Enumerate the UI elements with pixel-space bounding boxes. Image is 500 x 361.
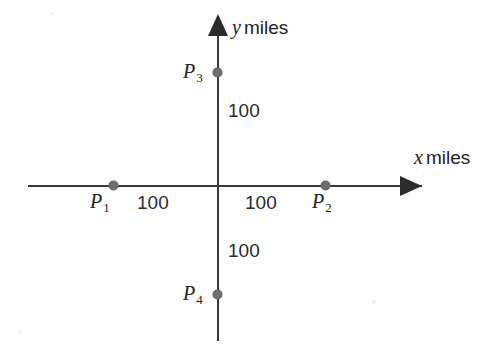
distance-label-left: 100 [137,192,169,214]
x-axis-line [28,185,422,187]
scan-speck [50,12,53,15]
scan-speck [18,330,21,333]
y-axis-unit: miles [244,17,288,38]
point-label-p2-subscript: 2 [324,200,332,215]
point-label-p4-subscript: 4 [195,292,203,307]
point-label-p1-text: P [90,190,102,212]
scan-speck [372,300,376,304]
point-label-p2-text: P [312,190,324,212]
distance-label-down: 100 [228,240,260,262]
point-label-p1-subscript: 1 [102,200,110,215]
point-dot-p1[interactable] [109,181,118,190]
y-axis-arrow-icon [208,14,228,36]
distance-label-right: 100 [245,192,277,214]
x-axis-unit: miles [426,147,470,168]
x-axis-caption: xmiles [414,146,470,169]
point-label-p3: P3 [183,60,203,86]
y-axis-variable: y [232,16,244,38]
point-dot-p3[interactable] [213,68,222,77]
y-axis-caption: ymiles [232,16,288,39]
point-label-p3-subscript: 3 [195,70,203,85]
distance-label-up: 100 [228,100,260,122]
point-dot-p2[interactable] [321,181,330,190]
point-label-p3-text: P [183,60,195,82]
point-label-p4-text: P [183,282,195,304]
point-dot-p4[interactable] [213,290,222,299]
point-label-p4: P4 [183,282,203,308]
point-label-p1: P1 [90,190,110,216]
point-label-p2: P2 [312,190,332,216]
x-axis-arrow-icon [400,176,422,196]
x-axis-variable: x [414,146,426,168]
coordinate-plane-diagram: xmiles ymiles P1 P2 P3 P4 100 100 100 10… [0,0,500,361]
